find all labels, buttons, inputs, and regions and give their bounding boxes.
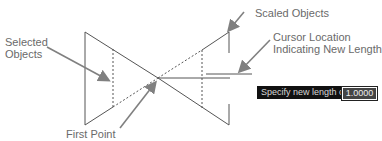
label-first-point: First Point [66, 128, 116, 140]
label-cursor-location: Cursor Location Indicating New Length [273, 31, 382, 55]
selected-objects-shape [85, 32, 158, 125]
scaled-objects-shape [158, 32, 252, 125]
label-scaled-objects: Scaled Objects [255, 7, 329, 19]
prompt-text: Specify new length or [261, 86, 347, 99]
label-selected-objects: Selected Objects [5, 36, 48, 60]
leader-arrows [47, 12, 270, 128]
length-value[interactable]: 1.0000 [343, 88, 376, 99]
length-value-input[interactable]: 1.0000 [341, 86, 378, 101]
